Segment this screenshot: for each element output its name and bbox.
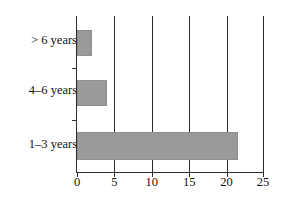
y-axis-tick-2 — [72, 120, 77, 121]
plot-area — [77, 16, 264, 172]
y-axis-tick-1 — [72, 68, 77, 69]
x-tick-label-15: 15 — [174, 176, 204, 189]
x-tick-label-10: 10 — [137, 176, 167, 189]
x-tick-label-20: 20 — [212, 176, 242, 189]
x-axis-line — [76, 172, 264, 173]
category-label-4-6-years: 4–6 years — [5, 84, 77, 97]
gridline-25 — [263, 16, 264, 172]
bar-4-6-years — [77, 80, 107, 106]
x-tick-label-5: 5 — [99, 176, 129, 189]
bar-over-6-years — [77, 30, 92, 56]
x-tick-label-25: 25 — [248, 176, 278, 189]
x-tick-label-0: 0 — [62, 176, 92, 189]
bar-chart: > 6 years 4–6 years 1–3 years 0 5 10 15 … — [0, 0, 285, 197]
category-label-over-6-years: > 6 years — [5, 34, 77, 47]
bar-1-3-years — [77, 132, 238, 160]
category-label-1-3-years: 1–3 years — [5, 138, 77, 151]
